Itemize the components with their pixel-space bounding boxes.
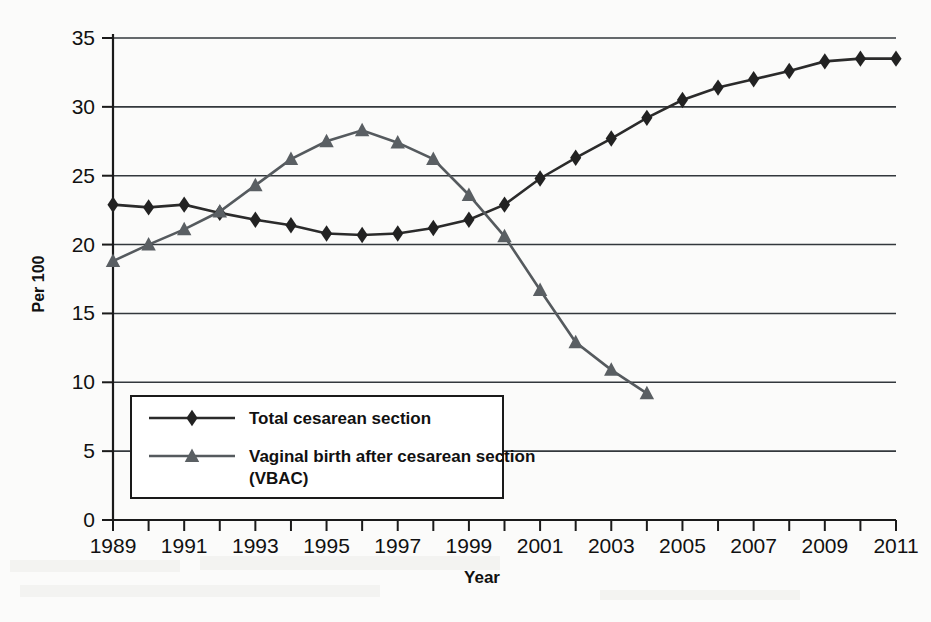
x-axis-tick-label: 2005: [659, 534, 706, 557]
line-chart: 05101520253035 1989199119931995199719992…: [0, 0, 931, 622]
y-axis-tick-label: 0: [83, 508, 95, 531]
chart-background: [0, 0, 931, 622]
chart-figure: 05101520253035 1989199119931995199719992…: [0, 0, 931, 622]
y-axis-title: Per 100: [30, 255, 47, 312]
chart-legend: Total cesarean sectionVaginal birth afte…: [131, 396, 535, 498]
x-axis-tick-label: 2009: [801, 534, 848, 557]
y-axis-tick-label: 20: [72, 233, 95, 256]
y-axis-tick-label: 15: [72, 301, 95, 324]
y-axis-tick-label: 25: [72, 164, 95, 187]
y-axis-tick-label: 30: [72, 95, 95, 118]
x-axis-title: Year: [464, 568, 500, 587]
x-axis-tick-label: 2003: [588, 534, 635, 557]
y-axis-tick-label: 10: [72, 370, 95, 393]
x-axis-tick-label: 2001: [517, 534, 564, 557]
x-axis-tick-label: 2007: [730, 534, 777, 557]
x-axis-tick-label: 2011: [873, 534, 918, 557]
x-axis-tick-label: 1995: [303, 534, 350, 557]
y-axis-tick-label: 5: [83, 439, 95, 462]
x-axis-tick-label: 1993: [232, 534, 279, 557]
x-axis-tick-label: 1999: [446, 534, 493, 557]
x-axis-tick-label: 1989: [90, 534, 137, 557]
y-axis-tick-label: 35: [72, 26, 95, 49]
x-axis-tick-label: 1997: [374, 534, 421, 557]
x-axis-tick-label: 1991: [161, 534, 208, 557]
legend-label: Total cesarean section: [249, 409, 431, 428]
